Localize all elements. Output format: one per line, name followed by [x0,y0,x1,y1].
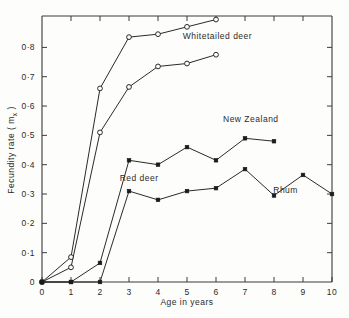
figure-container: 00·10·20·30·40·50·60·70·8 012345678910 W… [0,0,349,318]
data-point-marker [243,137,247,141]
data-point-marker [185,189,189,193]
series-annotation-2: Red deer [120,173,159,183]
data-point-marker [185,24,190,29]
y-tick-label: 0·7 [22,72,36,82]
y-tick-label: 0·6 [22,101,36,111]
x-tick-label: 8 [271,287,276,297]
right-axis-ticks [327,47,332,252]
x-tick-label: 7 [242,287,247,297]
y-tick-label: 0·1 [22,248,36,258]
data-point-marker [127,189,131,193]
series-annotations-group: Whitetailed deerNew ZealandRed deerRhum [120,31,298,195]
data-point-marker [156,64,161,69]
data-point-marker [98,280,102,284]
data-point-marker [272,139,276,143]
x-tick-label: 1 [68,287,73,297]
data-point-marker [127,85,132,90]
data-point-marker [127,35,132,40]
data-point-marker [156,32,161,37]
y-axis-title-main: Fecundity rate ( m [6,116,16,194]
x-tick-label: 0 [39,287,44,297]
data-point-marker [40,280,44,284]
data-point-marker [301,173,305,177]
y-axis-title: Fecundity rate ( mx ) [6,106,18,193]
series-line-2 [42,138,274,282]
y-tick-label: 0·3 [22,189,36,199]
x-tick-label: 5 [184,287,189,297]
y-tick-label: 0 [30,277,35,287]
y-tick-label: 0·8 [22,42,36,52]
data-point-marker [214,186,218,190]
data-point-marker [98,130,103,135]
data-point-marker [330,192,334,196]
data-point-marker [214,52,219,57]
series-markers-group [40,17,334,284]
x-tick-label: 3 [126,287,131,297]
y-axis-title-tail: ) [6,106,16,112]
x-tick-label: 9 [300,287,305,297]
series-lines-group [42,20,332,282]
series-annotation-0: Whitetailed deer [183,31,252,41]
x-axis-title: Age in years [160,297,213,307]
series-annotation-3: Rhum [273,185,298,195]
data-point-marker [214,158,218,162]
top-axis-ticks [71,16,303,21]
data-point-marker [214,17,219,22]
data-point-marker [185,145,189,149]
data-point-marker [127,158,131,162]
data-point-marker [69,265,74,270]
x-tick-label: 6 [213,287,218,297]
data-point-marker [98,261,102,265]
y-axis-ticks [42,47,47,282]
data-point-marker [69,280,73,284]
data-point-marker [156,163,160,167]
y-tick-label: 0·5 [22,130,36,140]
y-tick-label: 0·2 [22,218,36,228]
data-point-marker [69,255,74,260]
series-line-0 [42,20,216,282]
data-point-marker [243,167,247,171]
x-tick-label: 2 [97,287,102,297]
data-point-marker [185,61,190,66]
y-axis-title-group: Fecundity rate ( mx ) [6,106,18,193]
fecundity-rate-line-chart: 00·10·20·30·40·50·60·70·8 012345678910 W… [0,0,349,318]
y-axis-tick-labels: 00·10·20·30·40·50·60·70·8 [22,42,36,287]
y-tick-label: 0·4 [22,160,36,170]
series-annotation-1: New Zealand [223,114,279,124]
data-point-marker [98,86,103,91]
x-axis-tick-labels: 012345678910 [39,287,337,297]
x-tick-label: 10 [327,287,337,297]
x-tick-label: 4 [155,287,160,297]
x-axis-ticks [42,277,332,282]
data-point-marker [156,198,160,202]
